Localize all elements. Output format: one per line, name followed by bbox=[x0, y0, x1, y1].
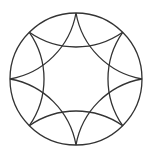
inner-arc bbox=[108, 32, 123, 125]
inner-arc bbox=[29, 32, 122, 47]
inner-arcs bbox=[10, 13, 142, 145]
inner-arc bbox=[29, 111, 122, 126]
inner-arc bbox=[29, 32, 44, 125]
geometric-diagram bbox=[0, 0, 152, 155]
